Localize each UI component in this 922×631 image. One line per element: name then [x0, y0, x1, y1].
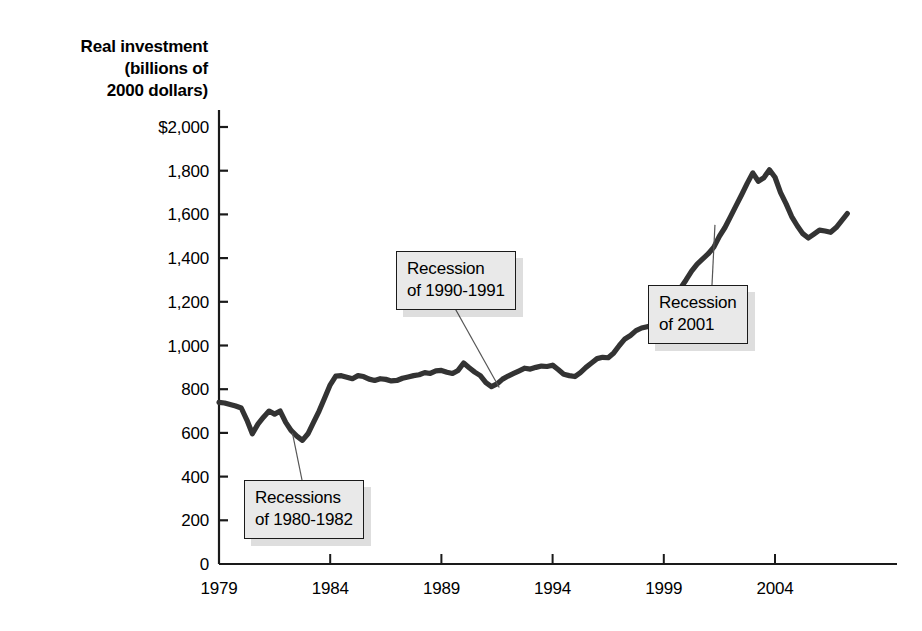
y-axis-tick-label: 1,400	[89, 250, 209, 267]
y-axis-tick-label: $2,000	[89, 119, 209, 136]
annotation-leader-line	[712, 225, 715, 285]
x-axis-tick-label: 1989	[406, 580, 476, 597]
annotation-callout-recession-1990-1991: Recessionof 1990-1991	[396, 251, 516, 310]
annotation-callout-recessions-1980-1982: Recessionsof 1980-1982	[244, 480, 364, 539]
annotation-line: Recession	[407, 258, 505, 280]
y-axis-tick-label: 400	[89, 469, 209, 486]
y-axis-tick-label: 600	[89, 425, 209, 442]
plot-area	[0, 0, 922, 631]
annotation-line: of 1990-1991	[407, 280, 505, 302]
y-axis-tick-label: 200	[89, 512, 209, 529]
x-axis-tick-label: 1999	[629, 580, 699, 597]
y-axis-tick-label: 800	[89, 381, 209, 398]
data-series-line	[219, 170, 847, 441]
y-axis-tick-label: 1,200	[89, 294, 209, 311]
x-axis-tick-label: 1984	[295, 580, 365, 597]
annotation-callout-recession-2001: Recessionof 2001	[648, 285, 748, 344]
annotation-line: of 2001	[659, 314, 737, 336]
annotation-line: Recessions	[255, 487, 353, 509]
y-axis-tick-label: 1,800	[89, 163, 209, 180]
annotation-line: of 1980-1982	[255, 509, 353, 531]
x-axis-tick-label: 1979	[184, 580, 254, 597]
investment-line-chart: Real investment (billions of 2000 dollar…	[0, 0, 922, 631]
x-axis-tick-label: 1994	[518, 580, 588, 597]
y-axis-tick-label: 0	[89, 556, 209, 573]
y-axis-tick-label: 1,000	[89, 338, 209, 355]
y-axis-tick-label: 1,600	[89, 206, 209, 223]
annotation-line: Recession	[659, 292, 737, 314]
x-axis-tick-label: 2004	[740, 580, 810, 597]
